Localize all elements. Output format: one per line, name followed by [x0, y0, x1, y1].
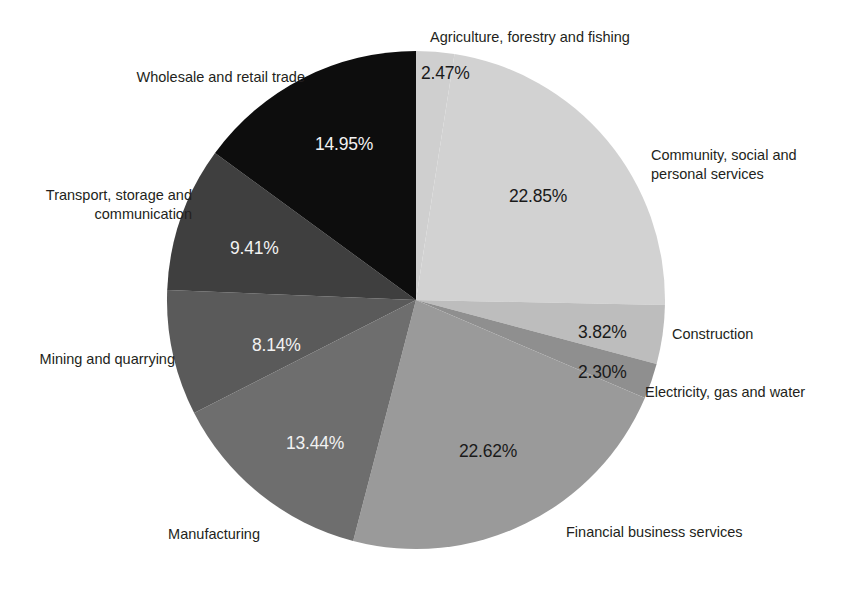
label-construction-line1: Construction — [672, 326, 753, 342]
value-financial: 22.62% — [459, 441, 517, 462]
label-agriculture-line1: Agriculture, forestry and fishing — [430, 29, 630, 45]
label-manufacturing-line1: Manufacturing — [168, 526, 260, 542]
label-mining-and-quarrying: Mining and quarrying — [10, 350, 175, 369]
label-wholesale-and-retail-trade: Wholesale and retail trade — [60, 68, 305, 87]
value-agriculture: 2.47% — [421, 63, 470, 84]
value-wholesale: 14.95% — [315, 134, 373, 155]
label-transport-line2: communication — [14, 205, 192, 224]
label-financial-business-services: Financial business services — [566, 523, 796, 542]
pie-chart-graphic — [0, 0, 846, 601]
label-agriculture: Agriculture, forestry and fishing — [400, 28, 660, 47]
label-transport-storage-communication: Transport, storage and communication — [14, 186, 192, 224]
label-transport-line1: Transport, storage and — [14, 186, 192, 205]
value-transport: 9.41% — [230, 238, 279, 259]
label-community-line1: Community, social and — [651, 146, 841, 165]
label-wholesale-line1: Wholesale and retail trade — [137, 69, 305, 85]
pie-slices-group — [167, 51, 665, 549]
value-mining: 8.14% — [252, 335, 301, 356]
label-electricity-line1: Electricity, gas and water — [645, 384, 805, 400]
label-community-social-personal-services: Community, social and personal services — [651, 146, 841, 184]
label-financial-line1: Financial business services — [566, 524, 743, 540]
label-manufacturing: Manufacturing — [80, 525, 260, 544]
label-electricity-gas-water: Electricity, gas and water — [645, 383, 845, 402]
label-community-line2: personal services — [651, 165, 841, 184]
value-manufacturing: 13.44% — [286, 433, 344, 454]
label-mining-line1: Mining and quarrying — [40, 351, 175, 367]
value-construction: 3.82% — [578, 322, 627, 343]
label-construction: Construction — [672, 325, 832, 344]
pie-slice-community-social-and-personal-services[interactable] — [416, 54, 665, 305]
pie-chart-figure: Agriculture, forestry and fishing Commun… — [0, 0, 846, 601]
value-community: 22.85% — [509, 186, 567, 207]
value-electricity: 2.30% — [578, 362, 627, 383]
